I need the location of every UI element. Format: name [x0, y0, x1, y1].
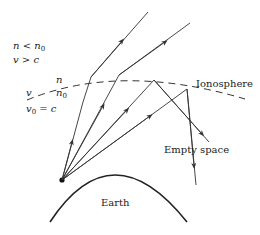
label-ionosphere: Ionosphere	[196, 79, 253, 89]
cond-lt: <	[23, 40, 31, 51]
label-v: v	[26, 88, 32, 98]
ray-2	[62, 23, 190, 180]
cond-c: c	[33, 54, 39, 65]
n0-sub: 0	[62, 92, 66, 100]
label-n0-below: n0	[56, 88, 67, 100]
v0-sub: 0	[32, 108, 36, 116]
condition-v-greater-c: v > c	[13, 55, 39, 65]
ionosphere-diagram: n < n0 v > c n n0 v v0 = c Ionosphere Em…	[0, 0, 260, 235]
condition-n-less-n0: n < n0	[13, 41, 45, 53]
ray-3	[62, 80, 209, 180]
cond-v: v	[13, 54, 19, 65]
label-earth: Earth	[101, 198, 130, 208]
diagram-graphics	[0, 0, 260, 235]
cond-n0-sub: 0	[41, 45, 45, 53]
v0-eq-c: = c	[39, 103, 56, 114]
cond-n: n	[13, 40, 19, 51]
label-empty-space: Empty space	[164, 145, 229, 155]
label-n-above: n	[56, 75, 62, 85]
ray-1	[62, 12, 148, 180]
ray-4	[62, 89, 196, 185]
cond-gt: >	[22, 54, 30, 65]
label-v0-equals-c: v0 = c	[26, 104, 56, 116]
